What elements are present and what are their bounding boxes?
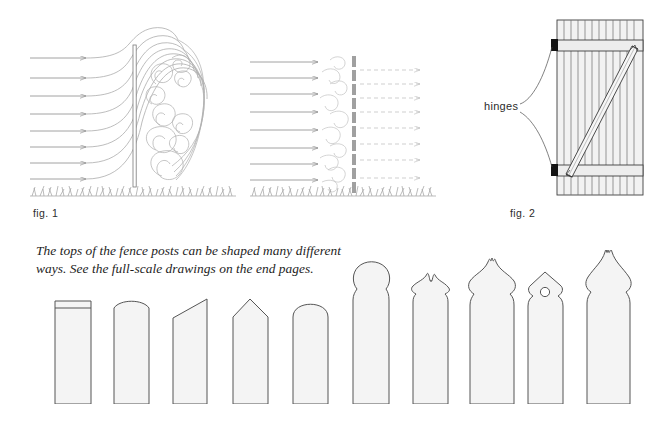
post-4-gable-point-top [233, 299, 268, 404]
fig1-group [30, 28, 236, 196]
post-3-angled-bevel-top [173, 299, 207, 404]
post-6-ball-finial-top [353, 262, 390, 404]
fig1-wind-arrows [30, 58, 86, 179]
post-gallery-caption: The tops of the fence posts can be shape… [36, 242, 366, 277]
hinge-top [551, 39, 558, 51]
fig2-caption-label: fig. 2 [510, 207, 535, 219]
figure-page: fig. 1 fig. 2 hinges The tops of the fen… [0, 0, 667, 429]
fig1b-spaced-fence-pickets [352, 56, 356, 193]
post-8-tall-onion-spire-top [469, 258, 516, 404]
fig1-caption-label: fig. 1 [33, 207, 58, 219]
post-1-square-chamfered-top [55, 301, 91, 404]
hinges-leader-lines [520, 47, 552, 167]
hinges-annotation-label: hinges [484, 100, 518, 112]
hinge-bottom [551, 164, 558, 176]
fig2-group [520, 20, 643, 195]
post-9-bored-hole [540, 287, 549, 296]
illustration-canvas [0, 0, 667, 429]
fig1b-downwind-dashed-arrows [360, 70, 420, 178]
fig1-ground-grass [30, 186, 236, 196]
fig1b-wind-arrows [250, 62, 318, 180]
fig1b-ground-grass [250, 186, 436, 196]
post-5-full-round-top [293, 304, 328, 404]
post-10-tall-flame-finial-top [586, 249, 631, 404]
fig1-recirculation-envelope [172, 40, 204, 180]
fig1-solid-fence-board [133, 45, 136, 187]
post-2-segmental-arched-top [114, 301, 149, 404]
fig1b-group [250, 56, 436, 196]
fig1-streamlines [86, 28, 207, 179]
post-7-small-ogee-spire-top [412, 273, 450, 404]
fig1b-small-eddies [320, 57, 348, 192]
fig1-turbulent-eddies [146, 55, 192, 179]
post-9-pierced-gable-top [528, 272, 563, 404]
